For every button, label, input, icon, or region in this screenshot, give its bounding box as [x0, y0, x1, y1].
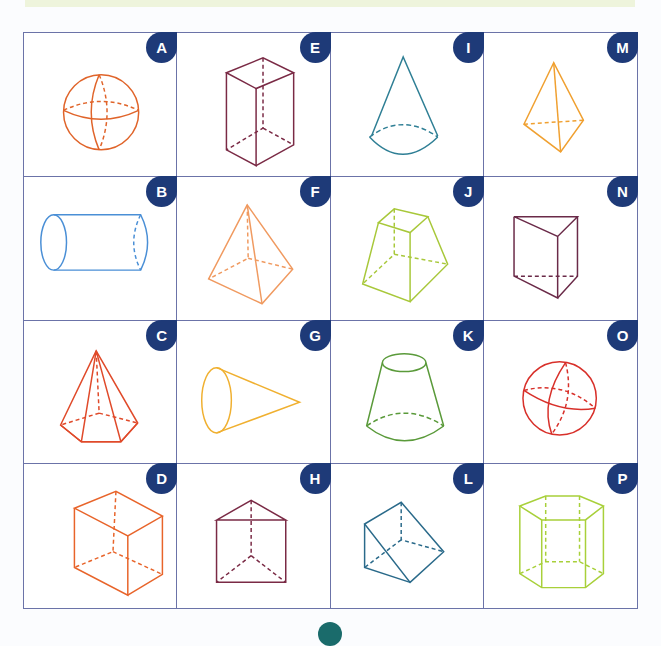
badge-n: N: [607, 176, 638, 207]
top-band: [25, 0, 635, 7]
cell-h[interactable]: H: [177, 464, 330, 608]
cell-o[interactable]: O: [484, 321, 637, 465]
cell-c[interactable]: C: [24, 321, 177, 465]
badge-c: C: [146, 320, 177, 351]
badge-g: G: [300, 320, 331, 351]
page-marker-dot: [318, 622, 342, 646]
cell-j[interactable]: J: [331, 177, 484, 321]
shapes-grid: A E I: [23, 32, 638, 609]
badge-e: E: [300, 32, 331, 63]
badge-m: M: [607, 32, 638, 63]
badge-h: H: [300, 463, 331, 494]
cell-n[interactable]: N: [484, 177, 637, 321]
badge-l: L: [453, 463, 484, 494]
badge-o: O: [607, 320, 638, 351]
cell-k[interactable]: K: [331, 321, 484, 465]
cell-f[interactable]: F: [177, 177, 330, 321]
cell-p[interactable]: P: [484, 464, 637, 608]
cell-m[interactable]: M: [484, 33, 637, 177]
cell-d[interactable]: D: [24, 464, 177, 608]
badge-b: B: [146, 176, 177, 207]
cell-i[interactable]: I: [331, 33, 484, 177]
badge-i: I: [453, 32, 484, 63]
cell-a[interactable]: A: [24, 33, 177, 177]
cell-e[interactable]: E: [177, 33, 330, 177]
badge-k: K: [453, 320, 484, 351]
cell-l[interactable]: L: [331, 464, 484, 608]
badge-f: F: [300, 176, 331, 207]
cell-b[interactable]: B: [24, 177, 177, 321]
cell-g[interactable]: G: [177, 321, 330, 465]
badge-j: J: [453, 176, 484, 207]
